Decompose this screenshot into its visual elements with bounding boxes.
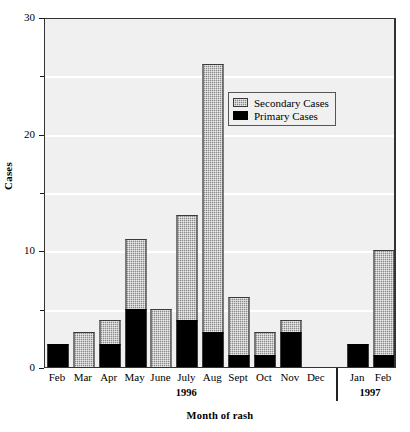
bar-segment-primary[interactable] (280, 332, 301, 367)
bar-stack[interactable] (374, 250, 395, 367)
legend-label: Secondary Cases (254, 97, 329, 109)
x-tick-label: Aug (199, 371, 225, 384)
legend-item[interactable]: Secondary Cases (233, 96, 329, 109)
x-axis-title: Month of rash (44, 410, 396, 421)
bar-segment-primary[interactable] (177, 320, 198, 367)
bar-slot (97, 19, 123, 367)
bar-stack[interactable] (280, 320, 301, 367)
bar-stack[interactable] (99, 320, 120, 367)
plot-area (44, 18, 396, 368)
legend-swatch-secondary-icon (233, 98, 248, 107)
bar-segment-secondary[interactable] (73, 332, 94, 367)
x-tick-label: Nov (277, 371, 303, 384)
bar-stack[interactable] (47, 344, 68, 367)
bar-segment-secondary[interactable] (177, 215, 198, 320)
bars-layer (45, 19, 394, 367)
y-tick-mark (39, 368, 44, 369)
bar-slot (149, 19, 175, 367)
bar-segment-secondary[interactable] (374, 250, 395, 355)
bar-segment-secondary[interactable] (125, 239, 146, 309)
y-tick-label: 0 (1, 362, 35, 373)
bar-slot (123, 19, 149, 367)
bar-segment-primary[interactable] (125, 309, 146, 367)
bar-stack[interactable] (177, 215, 198, 367)
bar-stack[interactable] (73, 332, 94, 367)
year-separator (336, 368, 338, 401)
year-group-label: 1997 (344, 387, 396, 399)
bar-segment-primary[interactable] (374, 355, 395, 367)
x-tick-label: July (173, 371, 199, 384)
bar-stack[interactable] (203, 64, 224, 367)
bar-segment-primary[interactable] (348, 344, 369, 367)
x-tick-label: Jan (344, 371, 370, 384)
bar-slot (71, 19, 97, 367)
bar-segment-secondary[interactable] (203, 64, 224, 332)
x-tick-label: Dec (303, 371, 329, 384)
bar-segment-secondary[interactable] (99, 320, 120, 343)
bar-slot (252, 19, 278, 367)
bar-chart: Cases 0102030 Secondary CasesPrimary Cas… (0, 0, 410, 432)
y-tick-label: 20 (1, 129, 35, 140)
bar-slot (226, 19, 252, 367)
y-tick-label: 30 (1, 12, 35, 23)
bar-stack[interactable] (125, 239, 146, 367)
year-group-label: 1996 (44, 387, 329, 399)
y-axis-ticks: 0102030 (0, 0, 44, 432)
x-tick-label: Mar (70, 371, 96, 384)
bar-stack[interactable] (348, 344, 369, 367)
bar-segment-secondary[interactable] (151, 309, 172, 367)
bar-slot (45, 19, 71, 367)
x-tick-label: Apr (96, 371, 122, 384)
x-tick-label: Oct (251, 371, 277, 384)
bar-segment-primary[interactable] (229, 355, 250, 367)
bar-slot (278, 19, 304, 367)
legend-swatch-primary-icon (233, 111, 248, 120)
bar-slot (345, 19, 371, 367)
bar-slot (174, 19, 200, 367)
y-tick-label: 10 (1, 245, 35, 256)
bar-stack[interactable] (229, 297, 250, 367)
bar-slot (304, 19, 330, 367)
x-tick-label: Sept (225, 371, 251, 384)
x-tick-label: May (122, 371, 148, 384)
bar-segment-secondary[interactable] (280, 320, 301, 332)
bar-segment-primary[interactable] (203, 332, 224, 367)
bar-segment-secondary[interactable] (254, 332, 275, 355)
bar-stack[interactable] (254, 332, 275, 367)
legend-item[interactable]: Primary Cases (233, 109, 329, 122)
chart-legend: Secondary CasesPrimary Cases (228, 92, 336, 126)
x-tick-label: Feb (370, 371, 396, 384)
legend-label: Primary Cases (254, 110, 318, 122)
bar-segment-primary[interactable] (254, 355, 275, 367)
bar-segment-primary[interactable] (99, 344, 120, 367)
x-tick-label: Feb (44, 371, 70, 384)
x-tick-label: June (148, 371, 174, 384)
bar-stack[interactable] (151, 309, 172, 367)
bar-segment-primary[interactable] (47, 344, 68, 367)
bar-slot (200, 19, 226, 367)
bar-segment-secondary[interactable] (229, 297, 250, 355)
bar-slot (371, 19, 396, 367)
